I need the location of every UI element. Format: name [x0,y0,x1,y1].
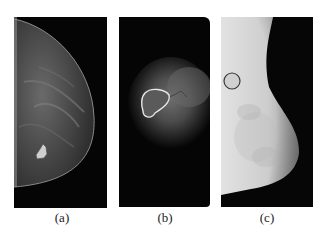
panel-label-a: (a) [42,210,82,226]
mammogram-image-b [119,17,210,207]
mammogram-panel-b [119,17,210,207]
mammogram-image-a [14,17,107,208]
mammogram-panel-c [221,17,313,207]
roi-circle-c [224,73,240,89]
panel-label-c: (c) [247,210,287,226]
mammogram-panel-a [14,17,107,208]
mammogram-image-c [221,17,313,207]
panel-label-b: (b) [145,210,185,226]
